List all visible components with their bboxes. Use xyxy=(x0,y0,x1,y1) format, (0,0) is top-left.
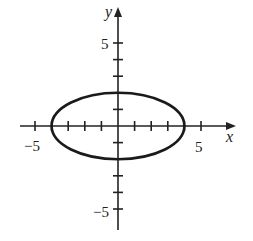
y-tick-label-5: 5 xyxy=(101,36,109,52)
y-axis-label: y xyxy=(103,3,113,21)
x-tick-label-5: 5 xyxy=(195,139,203,155)
y-axis-arrow-icon xyxy=(114,7,122,17)
y-tick-label-neg5: −5 xyxy=(93,204,109,220)
ellipse-graph: −5 5 5 −5 x y xyxy=(0,0,253,241)
x-tick-label-neg5: −5 xyxy=(24,138,40,154)
x-axis-label: x xyxy=(225,128,233,145)
